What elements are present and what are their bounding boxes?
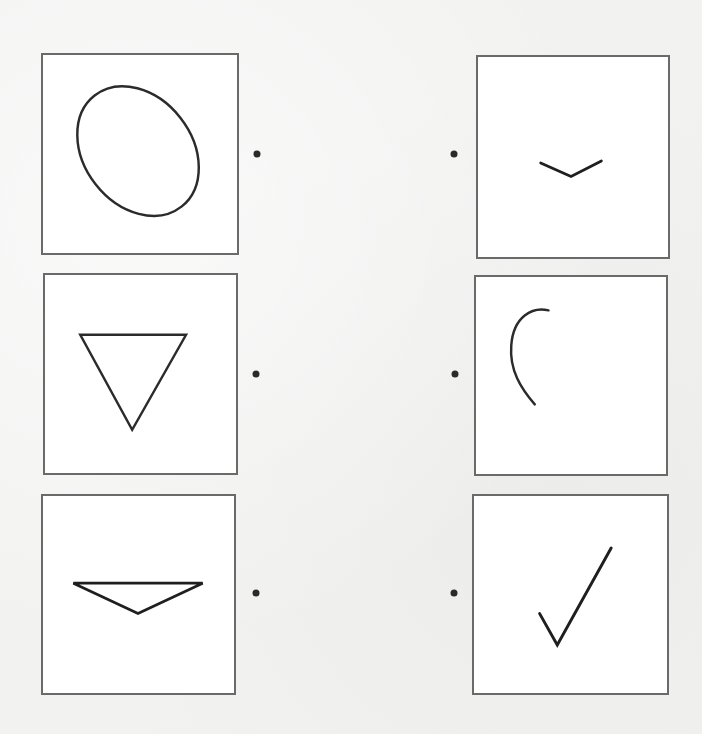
left-box-ellipse[interactable]: tilted oval <box>41 53 239 255</box>
left-dot-2[interactable] <box>253 371 260 378</box>
inverted-triangle-icon <box>45 275 236 473</box>
left-dot-3[interactable] <box>253 590 260 597</box>
left-dot-1[interactable] <box>254 151 261 158</box>
left-box-flat-triangle[interactable]: wide flat triangle <box>41 494 236 695</box>
right-box-chevron[interactable]: small V angle <box>476 55 670 259</box>
right-dot-1[interactable] <box>451 151 458 158</box>
arc-icon <box>476 277 666 474</box>
right-dot-2[interactable] <box>452 371 459 378</box>
right-dot-3[interactable] <box>451 590 458 597</box>
flat-triangle-icon <box>43 496 234 693</box>
chevron-down-icon <box>478 57 668 257</box>
checkmark-icon <box>474 496 667 693</box>
right-box-arc[interactable]: curved arc <box>474 275 668 476</box>
ellipse-icon <box>43 55 237 253</box>
left-box-inverted-triangle[interactable]: downward triangle <box>43 273 238 475</box>
right-box-checkmark[interactable]: check mark <box>472 494 669 695</box>
